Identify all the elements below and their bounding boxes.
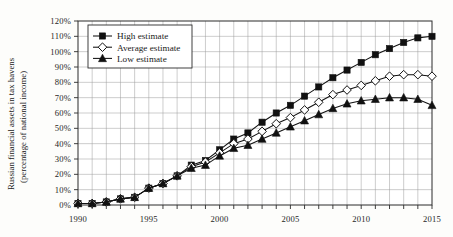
y-axis-title-line2: (percentage of national income) bbox=[18, 71, 28, 183]
y-axis-title-line1: Russian financial assets in tax havens bbox=[6, 57, 16, 190]
legend-label: Low estimate bbox=[117, 54, 167, 64]
data-point bbox=[344, 67, 350, 73]
data-point bbox=[330, 75, 336, 81]
y-tick-label: 80% bbox=[55, 77, 71, 87]
y-tick-label: 70% bbox=[55, 93, 71, 103]
data-point bbox=[273, 110, 279, 116]
x-tick-label: 1990 bbox=[69, 214, 87, 224]
data-point bbox=[301, 93, 307, 99]
chart-legend: High estimateAverage estimateLow estimat… bbox=[88, 25, 192, 68]
data-point bbox=[372, 52, 378, 58]
y-axis-title: Russian financial assets in tax havens (… bbox=[6, 57, 28, 190]
legend-label: Average estimate bbox=[117, 43, 180, 53]
y-tick-label: 90% bbox=[55, 62, 71, 72]
y-tick-label: 40% bbox=[55, 139, 71, 149]
legend-marker-filled-square bbox=[99, 33, 105, 39]
x-tick-label: 1995 bbox=[140, 214, 158, 224]
x-tick-label: 2000 bbox=[211, 214, 229, 224]
y-tick-label: 10% bbox=[55, 185, 71, 195]
y-tick-label: 110% bbox=[50, 31, 71, 41]
data-point bbox=[259, 119, 265, 125]
x-tick-label: 2005 bbox=[281, 214, 299, 224]
y-tick-label: 120% bbox=[50, 16, 71, 26]
x-tick-label: 2015 bbox=[423, 214, 441, 224]
y-tick-label: 30% bbox=[55, 154, 71, 164]
data-point bbox=[386, 46, 392, 52]
x-tick-label: 2010 bbox=[352, 214, 370, 224]
data-point bbox=[429, 33, 435, 39]
y-tick-label: 50% bbox=[55, 123, 71, 133]
x-axis-ticks: 199019952000200520102015 bbox=[69, 205, 441, 224]
data-point bbox=[358, 59, 364, 65]
data-point bbox=[287, 102, 293, 108]
legend-label: High estimate bbox=[117, 31, 168, 41]
chart-canvas: Russian financial assets in tax havens (… bbox=[0, 0, 453, 237]
data-point bbox=[401, 39, 407, 45]
data-point bbox=[316, 84, 322, 90]
y-tick-label: 0% bbox=[59, 200, 71, 210]
y-tick-label: 100% bbox=[50, 47, 71, 57]
y-tick-label: 20% bbox=[55, 169, 71, 179]
y-tick-label: 60% bbox=[55, 108, 71, 118]
y-axis-ticks: 0%10%20%30%40%50%60%70%80%90%100%110%120… bbox=[50, 16, 78, 210]
chart-figure: Russian financial assets in tax havens (… bbox=[0, 0, 453, 237]
data-point bbox=[415, 35, 421, 41]
